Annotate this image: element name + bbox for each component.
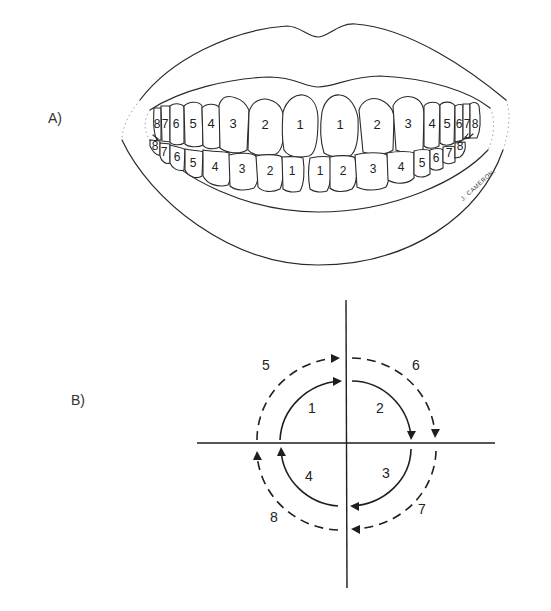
- tooth-number: 3: [239, 162, 246, 176]
- lip-corner-left: [122, 100, 140, 140]
- arc-label: 1: [308, 400, 316, 416]
- arrowhead-icon: [277, 447, 286, 456]
- arc-6: [352, 358, 435, 434]
- tooth-number: 6: [173, 117, 180, 131]
- tooth-number: 4: [212, 160, 219, 174]
- panel-a: A): [48, 24, 509, 265]
- arrowhead-icon: [333, 377, 342, 386]
- arc-label: 7: [418, 501, 426, 517]
- arc-label: 3: [382, 465, 390, 481]
- tooth-number: 4: [428, 116, 435, 131]
- arrowhead-icon: [253, 451, 262, 460]
- vertical-axis: [346, 300, 347, 588]
- tooth-number: 2: [267, 164, 274, 178]
- tooth-number: 6: [174, 150, 181, 164]
- arrowhead-icon: [350, 502, 359, 511]
- tooth-number: 6: [456, 117, 463, 131]
- tooth-number: 3: [404, 116, 411, 131]
- figure-canvas: A): [0, 0, 551, 611]
- tooth-number: 8: [472, 117, 479, 131]
- tooth-number: 2: [261, 117, 268, 132]
- tooth-number: 5: [443, 116, 450, 131]
- mouth-corner-left: [145, 110, 150, 140]
- arc-label: 8: [270, 509, 278, 525]
- tooth-number: 2: [340, 164, 347, 178]
- arc-7: [353, 451, 436, 529]
- tooth-number: 5: [189, 116, 196, 131]
- tooth-number: 7: [464, 117, 471, 131]
- arrowhead-icon: [351, 525, 360, 534]
- arc-label: 4: [305, 468, 313, 484]
- tooth-number: 7: [162, 117, 169, 131]
- panel-b: B): [71, 300, 495, 588]
- tooth-number: 4: [207, 116, 214, 131]
- artist-signature: J. CAMERON.: [460, 168, 497, 202]
- tooth-number: 1: [317, 164, 324, 178]
- tooth-number: 7: [446, 146, 453, 160]
- panel-b-label: B): [71, 392, 85, 408]
- arrowhead-icon: [431, 429, 440, 438]
- tooth-number: 7: [161, 145, 168, 159]
- panel-a-label: A): [48, 110, 62, 126]
- tooth-number: 6: [433, 151, 440, 165]
- tooth-number: 2: [373, 117, 380, 132]
- tooth-number: 4: [398, 160, 405, 174]
- tooth-number: 3: [229, 116, 236, 131]
- tooth-number: 8: [154, 117, 161, 131]
- tooth-number: 8: [152, 139, 159, 153]
- arrowhead-icon: [407, 431, 416, 440]
- tooth-number: 8: [457, 139, 464, 153]
- arc-label: 2: [376, 400, 384, 416]
- arc-numbers: 1 2 3 4 5 6 7 8: [262, 357, 426, 525]
- arc-label: 6: [412, 357, 420, 373]
- tooth-number: 5: [419, 156, 426, 170]
- arc-label: 5: [262, 357, 270, 373]
- tooth-number: 3: [370, 162, 377, 176]
- arrowhead-icon: [331, 354, 340, 363]
- tooth-number: 5: [190, 156, 197, 170]
- mouth-corner-right: [488, 108, 494, 150]
- tooth-number: 1: [296, 117, 303, 132]
- tooth-number: 1: [289, 164, 296, 178]
- tooth-number: 1: [336, 117, 343, 132]
- lip-corner-right: [503, 100, 509, 150]
